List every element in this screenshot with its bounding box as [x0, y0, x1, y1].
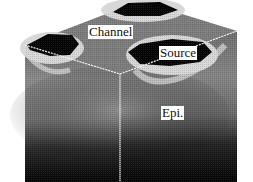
device-cube-figure: Channel Source Epi. — [0, 0, 253, 182]
epi-label: Epi. — [161, 106, 184, 120]
channel-label: Channel — [88, 25, 133, 39]
source-label: Source — [159, 46, 197, 60]
